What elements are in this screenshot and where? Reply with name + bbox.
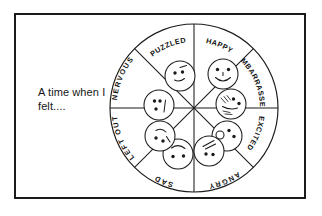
face-left-out	[145, 121, 175, 151]
wheel-spokes	[110, 24, 278, 192]
face-puzzled	[165, 61, 195, 91]
face-nervous	[144, 90, 174, 120]
worksheet-card: A time when I felt....	[0, 0, 322, 216]
face-embarrassed	[216, 89, 246, 119]
face-angry	[194, 136, 224, 166]
prompt-text: A time when I felt....	[38, 86, 108, 113]
face-happy	[208, 59, 238, 89]
feelings-wheel: HAPPY EMBARRASSED	[104, 18, 284, 198]
